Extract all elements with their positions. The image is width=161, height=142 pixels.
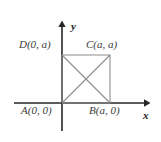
x-axis-arrowhead (144, 99, 151, 106)
geometry-figure: D(0, a) C(a, a) A(0, 0) B(a, 0) y x (0, 0, 161, 142)
vertex-label-a: A(0, 0) (21, 105, 52, 116)
vertex-label-b: B(a, 0) (89, 105, 120, 116)
y-axis-arrowhead (58, 21, 65, 28)
vertex-label-c: C(a, a) (86, 39, 117, 50)
figure-canvas (0, 0, 161, 142)
y-axis-label: y (71, 21, 76, 32)
vertex-label-d: D(0, a) (19, 39, 51, 50)
x-axis-label: x (143, 110, 149, 121)
